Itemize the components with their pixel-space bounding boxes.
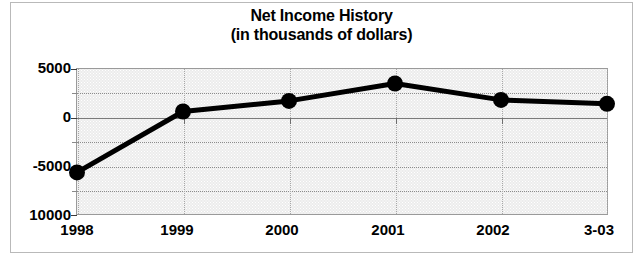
- data-point-1999: [175, 104, 191, 120]
- data-series-layer: [0, 0, 643, 266]
- chart-figure: Net Income History (in thousands of doll…: [0, 0, 643, 266]
- data-point-1998: [69, 164, 85, 180]
- data-point-2000: [281, 93, 297, 109]
- data-point-2001: [387, 76, 403, 92]
- data-point-3-03: [599, 96, 615, 112]
- data-point-2002: [493, 92, 509, 108]
- series-line-net-income: [77, 84, 607, 173]
